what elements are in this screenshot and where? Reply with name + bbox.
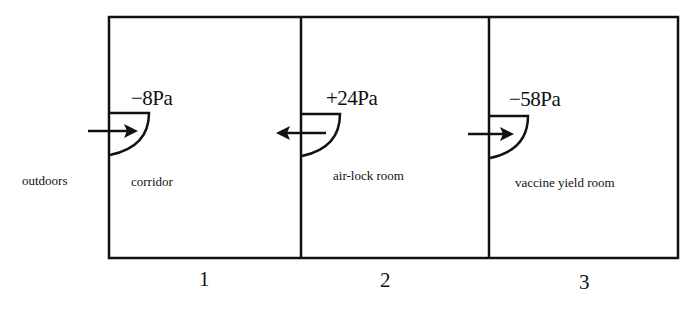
outdoors-label: outdoors bbox=[22, 173, 68, 189]
room-name-3: vaccine yield room bbox=[515, 175, 615, 191]
floor-plan-drawing bbox=[0, 0, 697, 315]
room-number-1: 1 bbox=[199, 267, 210, 292]
pressure-label-room-1: −8Pa bbox=[131, 86, 172, 111]
room-number-3: 3 bbox=[579, 270, 590, 295]
room-name-1: corridor bbox=[131, 174, 173, 190]
room-name-2: air-lock room bbox=[333, 168, 404, 184]
pressure-label-room-3: −58Pa bbox=[509, 87, 560, 112]
door-swing-3-icon bbox=[490, 116, 528, 158]
pressure-label-room-2: +24Pa bbox=[326, 86, 377, 111]
door-swing-2-icon bbox=[302, 114, 340, 156]
building-outline bbox=[109, 17, 678, 258]
room-number-2: 2 bbox=[380, 268, 391, 293]
